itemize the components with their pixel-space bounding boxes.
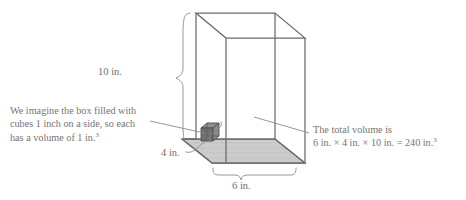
right-note-expression: 6 in. × 4 in. × 10 in. = 240 in. <box>313 137 433 148</box>
annotation-left-note: We imagine the box filled with cubes 1 i… <box>10 104 136 144</box>
box-diagram <box>0 0 466 200</box>
left-note-line-3: has a volume of 1 in.3 <box>10 131 136 144</box>
left-note-line-3-text: has a volume of 1 in. <box>10 132 95 143</box>
right-note-leader <box>254 117 309 133</box>
annotation-right-note: The total volume is 6 in. × 4 in. × 10 i… <box>313 123 437 150</box>
left-note-line-1: We imagine the box filled with <box>10 104 136 117</box>
dimension-label-depth: 4 in. <box>161 146 180 159</box>
dimension-label-width: 6 in. <box>232 179 251 192</box>
right-note-line-1: The total volume is <box>313 123 437 136</box>
dimension-label-height: 10 in. <box>98 65 122 78</box>
left-note-exponent: 3 <box>95 130 98 137</box>
width-brace <box>213 168 296 180</box>
right-note-line-2: 6 in. × 4 in. × 10 in. = 240 in.3 <box>313 136 437 149</box>
figure-canvas: 10 in. 4 in. 6 in. We imagine the box fi… <box>0 0 466 200</box>
box-top-face <box>196 13 305 38</box>
left-note-line-2: cubes 1 inch on a side, so each <box>10 117 136 130</box>
height-brace <box>176 13 190 145</box>
leader-lines <box>150 117 309 133</box>
box-floor-shaded <box>182 139 305 163</box>
right-note-exponent: 3 <box>433 136 436 143</box>
